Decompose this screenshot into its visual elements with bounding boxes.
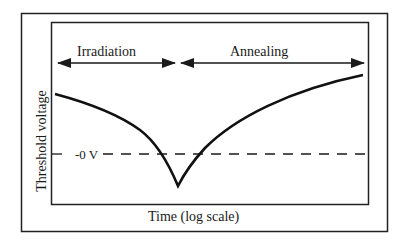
y-axis-label: Threshold voltage xyxy=(34,90,49,191)
threshold-voltage-curve xyxy=(55,75,363,186)
threshold-voltage-diagram: Irradiation Annealing -0 V Time (log sca… xyxy=(0,0,407,243)
zero-volt-label: -0 V xyxy=(75,147,99,162)
x-axis-label: Time (log scale) xyxy=(148,209,240,225)
irradiation-label: Irradiation xyxy=(77,44,136,59)
annealing-label: Annealing xyxy=(230,44,288,59)
